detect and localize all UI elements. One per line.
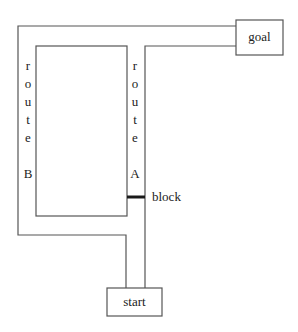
route-a-letter: e xyxy=(132,130,138,145)
route-a-name: A xyxy=(130,166,140,181)
route-a-letter: t xyxy=(133,112,137,127)
goal-node: goal xyxy=(236,20,283,55)
route-a-wall xyxy=(145,46,236,288)
route-b-letter: u xyxy=(25,94,32,109)
route-a-letter: o xyxy=(132,76,139,91)
route-b-letter: t xyxy=(26,112,30,127)
block-label: block xyxy=(152,189,181,204)
route-b-letter: e xyxy=(25,130,31,145)
route-b-letter: o xyxy=(25,76,32,91)
route-b-name: B xyxy=(24,166,33,181)
start-node: start xyxy=(107,288,162,316)
route-b-letter: r xyxy=(26,58,31,73)
route-a-letter: r xyxy=(133,58,138,73)
inner-wall-block xyxy=(36,46,127,216)
goal-label: goal xyxy=(248,29,271,44)
route-a-label: r o u t e A xyxy=(130,58,140,181)
route-a-letter: u xyxy=(132,94,139,109)
route-diagram: block goal start r o u t e B r o u t e A xyxy=(0,0,298,332)
route-b-label: r o u t e B xyxy=(24,58,33,181)
start-label: start xyxy=(123,294,146,309)
